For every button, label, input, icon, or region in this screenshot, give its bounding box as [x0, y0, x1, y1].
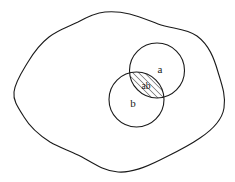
venn-diagram-svg: a b ab [0, 0, 235, 182]
label-intersection-ab: ab [142, 81, 151, 91]
label-set-a: a [158, 63, 163, 75]
venn-diagram-canvas: a b ab [0, 0, 235, 182]
label-set-b: b [130, 97, 136, 109]
universe-blob-outline [14, 12, 225, 172]
